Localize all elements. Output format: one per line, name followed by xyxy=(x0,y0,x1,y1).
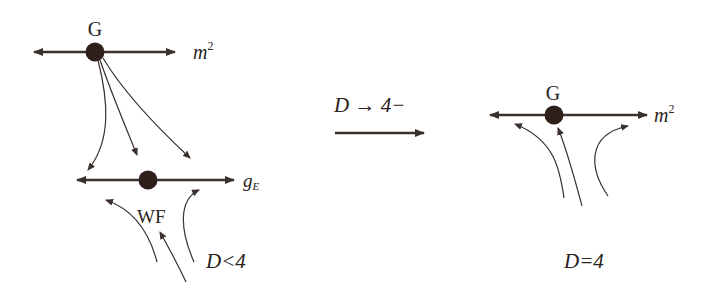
label-ge: gE xyxy=(243,170,260,192)
label-m2-left: m2 xyxy=(193,39,213,63)
gaussian-fixed-point-left xyxy=(86,43,105,62)
label-g-left: G xyxy=(88,18,102,40)
label-d-less-4: D<4 xyxy=(205,249,246,273)
flow-lines-into-g xyxy=(515,124,628,206)
label-g-right: G xyxy=(546,82,560,104)
gaussian-fixed-point-right xyxy=(545,106,564,125)
flow-lines-g-to-wf xyxy=(88,58,190,170)
label-d-to-4-minus: D → 4− xyxy=(333,93,405,117)
label-wf: WF xyxy=(137,206,166,227)
label-d-equals-4: D=4 xyxy=(563,249,604,273)
label-m2-right: m2 xyxy=(654,102,674,126)
rg-flow-diagram: G m2 gE WF D<4 D → 4− G m2 D=4 xyxy=(0,0,706,298)
wilson-fisher-fixed-point xyxy=(139,171,158,190)
flow-lines-into-wf xyxy=(106,190,199,282)
